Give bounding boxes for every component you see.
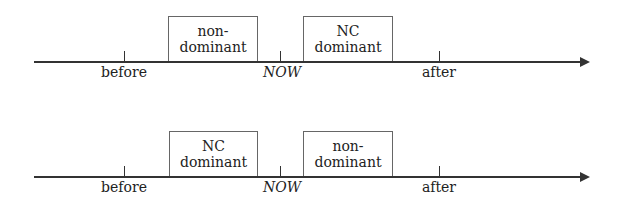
tick-now [280, 166, 281, 176]
tick-before [124, 166, 125, 176]
box-text-line2: dominant [314, 154, 381, 170]
tick-after [439, 166, 440, 176]
box-text-line1: NC [202, 138, 225, 154]
label-after: after [422, 179, 456, 195]
time-axis [34, 176, 582, 178]
box-text-line2: dominant [180, 154, 247, 170]
arrow-right-icon [580, 172, 590, 182]
label-before: before [101, 179, 147, 195]
timeline-bottom: NC dominant non- dominant before NOW aft… [0, 0, 617, 100]
period-box-before-now: NC dominant [169, 131, 258, 177]
period-box-after-now: non- dominant [303, 131, 393, 177]
box-text-line1: non- [332, 138, 363, 154]
label-now: NOW [263, 179, 301, 195]
